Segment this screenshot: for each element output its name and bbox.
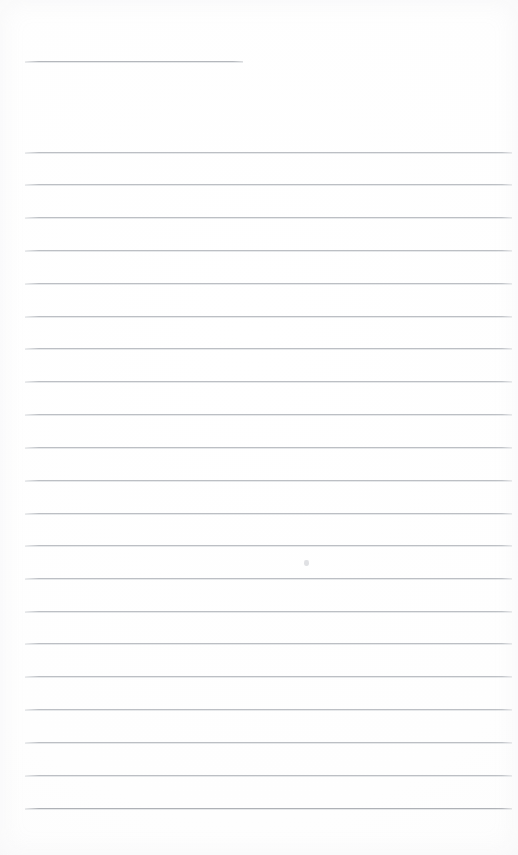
ruled-line <box>25 775 512 776</box>
ruled-line <box>25 152 512 153</box>
ruled-line <box>25 480 512 481</box>
ruled-line <box>25 742 512 743</box>
ruled-line <box>25 184 512 185</box>
paper-surface <box>0 0 518 855</box>
ruled-line <box>25 513 512 514</box>
ruled-line <box>25 611 512 612</box>
ruled-line <box>25 348 512 349</box>
sheet-edge-shading <box>0 0 518 855</box>
ruled-line <box>25 709 512 710</box>
ruled-line <box>25 250 512 251</box>
ruled-line <box>25 676 512 677</box>
ruled-line <box>25 578 512 579</box>
scan-speck <box>304 560 309 566</box>
ruled-line <box>25 545 512 546</box>
ruled-line <box>25 414 512 415</box>
header-rule-line <box>25 61 243 62</box>
ruled-line <box>25 217 512 218</box>
ruled-line <box>25 643 512 644</box>
ruled-line <box>25 447 512 448</box>
ruled-line <box>25 808 512 809</box>
ruled-line <box>25 316 512 317</box>
ruled-line <box>25 381 512 382</box>
ruled-line <box>25 283 512 284</box>
lined-page <box>0 0 518 855</box>
